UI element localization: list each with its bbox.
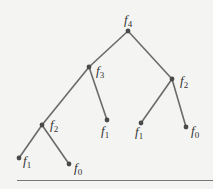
fibonacci-recursion-tree: f4f3f2f2f1f1f0f1f0 xyxy=(0,0,213,189)
label-subscript: 1 xyxy=(105,130,110,140)
node-label: f2 xyxy=(50,118,58,134)
label-subscript: 4 xyxy=(128,19,133,29)
tree-node-dot xyxy=(67,162,72,167)
node-label: f1 xyxy=(23,154,31,170)
tree-edge xyxy=(141,79,172,123)
tree-node-dot xyxy=(105,118,110,123)
tree-node-dot xyxy=(184,125,189,130)
label-subscript: 3 xyxy=(100,70,105,80)
label-subscript: 1 xyxy=(27,160,32,170)
tree-edges-and-nodes xyxy=(0,0,213,189)
tree-node-dot xyxy=(126,29,131,34)
node-label: f1 xyxy=(101,124,109,140)
label-subscript: 0 xyxy=(78,167,83,177)
tree-edge xyxy=(89,31,128,67)
node-label: f1 xyxy=(135,125,143,141)
baseline-rule xyxy=(17,180,213,181)
label-subscript: 0 xyxy=(195,130,200,140)
node-label: f4 xyxy=(124,13,132,29)
node-label: f0 xyxy=(74,161,82,177)
label-subscript: 1 xyxy=(139,131,144,141)
tree-edge xyxy=(128,31,172,79)
label-subscript: 2 xyxy=(184,80,189,90)
label-subscript: 2 xyxy=(54,124,59,134)
tree-node-dot xyxy=(17,156,22,161)
tree-node-dot xyxy=(87,65,92,70)
tree-node-dot xyxy=(170,77,175,82)
tree-node-dot xyxy=(40,123,45,128)
node-label: f3 xyxy=(96,64,104,80)
node-label: f2 xyxy=(180,74,188,90)
node-label: f0 xyxy=(191,124,199,140)
